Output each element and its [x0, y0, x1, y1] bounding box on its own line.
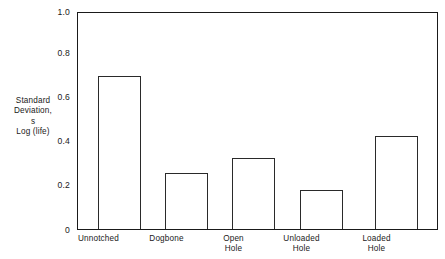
x-category-label-unnotched: Unnotched	[68, 234, 129, 244]
plot-area	[77, 12, 438, 230]
y-axis-title: Standard Deviation, s Log (life)	[4, 96, 62, 138]
bar-open-hole	[232, 158, 275, 229]
bar-loaded-hole	[375, 136, 418, 229]
bar-chart-figure: Standard Deviation, s Log (life) 0 0.2 0…	[0, 0, 445, 259]
y-axis-title-line-3: s	[4, 117, 62, 127]
y-tick-label-0-4: 0.4	[48, 137, 70, 146]
x-label-line: Unnotched	[68, 234, 129, 244]
x-category-label-open-hole: Open Hole	[203, 234, 264, 254]
x-label-line: Hole	[203, 244, 264, 254]
x-label-line: Loaded	[346, 234, 407, 244]
x-category-label-unloaded-hole: Unloaded Hole	[271, 234, 332, 254]
x-label-line: Hole	[271, 244, 332, 254]
y-tick-label-0: 0	[48, 226, 70, 235]
x-category-label-dogbone: Dogbone	[136, 234, 197, 244]
x-category-label-loaded-hole: Loaded Hole	[346, 234, 407, 254]
bar-unnotched	[98, 76, 141, 229]
x-label-line: Dogbone	[136, 234, 197, 244]
x-label-line: Hole	[346, 244, 407, 254]
y-axis-title-line-2: Deviation,	[4, 106, 62, 116]
x-label-line: Open	[203, 234, 264, 244]
y-tick-label-0-6: 0.6	[48, 93, 70, 102]
x-label-line: Unloaded	[271, 234, 332, 244]
y-tick-label-0-8: 0.8	[48, 49, 70, 58]
bar-dogbone	[165, 173, 208, 229]
y-tick-label-1-0: 1.0	[48, 8, 70, 17]
bar-unloaded-hole	[300, 190, 343, 229]
y-tick-label-0-2: 0.2	[48, 181, 70, 190]
